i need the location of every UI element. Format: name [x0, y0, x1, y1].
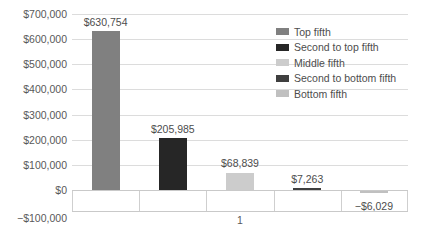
legend-swatch-icon	[276, 28, 289, 35]
chart-legend: Top fifthSecond to top fifthMiddle fifth…	[276, 24, 396, 102]
legend-item-label: Second to top fifth	[294, 42, 379, 53]
y-axis-tick-label: −$100,000	[0, 213, 67, 224]
y-axis-tick-label: $200,000	[0, 134, 67, 145]
bar-slot: $630,754	[72, 14, 139, 190]
y-axis-tick-label: $300,000	[0, 109, 67, 120]
legend-swatch-icon	[276, 75, 289, 82]
bar-value-label: $630,754	[84, 17, 128, 28]
bar-chart: $700,000$600,000$500,000$400,000$300,000…	[0, 0, 423, 232]
legend-swatch-icon	[276, 59, 289, 66]
x-axis-category-label: 1	[237, 215, 243, 226]
y-axis-tick-label: $100,000	[0, 160, 67, 171]
legend-item-label: Second to bottom fifth	[294, 73, 396, 84]
legend-item-label: Bottom fifth	[294, 89, 347, 100]
bar[interactable]	[226, 173, 254, 190]
bar[interactable]	[92, 31, 120, 190]
x-axis-category-band	[72, 191, 408, 212]
legend-item[interactable]: Top fifth	[276, 24, 396, 40]
legend-item[interactable]: Middle fifth	[276, 55, 396, 71]
legend-item[interactable]: Second to bottom fifth	[276, 71, 396, 87]
legend-item[interactable]: Bottom fifth	[276, 86, 396, 102]
bar-value-label: $205,985	[151, 124, 195, 135]
y-axis-tick-label: $400,000	[0, 84, 67, 95]
x-axis-tick	[72, 191, 73, 212]
legend-item-label: Top fifth	[294, 27, 331, 38]
x-axis-baseline	[72, 211, 408, 212]
x-axis-tick	[139, 191, 140, 212]
x-axis-tick	[206, 191, 207, 212]
bar-slot: $68,839	[206, 14, 273, 190]
legend-swatch-icon	[276, 90, 289, 97]
y-axis-tick-label: $0	[0, 185, 67, 196]
legend-item[interactable]: Second to top fifth	[276, 40, 396, 56]
legend-swatch-icon	[276, 44, 289, 51]
legend-item-label: Middle fifth	[294, 58, 345, 69]
bar-slot: $205,985	[139, 14, 206, 190]
y-axis-tick-label: $700,000	[0, 9, 67, 20]
bar-value-label: $7,263	[291, 174, 323, 185]
y-axis-tick-label: $600,000	[0, 34, 67, 45]
x-axis-tick	[274, 191, 275, 212]
x-axis-tick	[341, 191, 342, 212]
bar[interactable]	[159, 138, 187, 190]
y-axis-tick-label: $500,000	[0, 59, 67, 70]
bar-value-label: $68,839	[221, 158, 259, 169]
x-axis-tick	[407, 191, 408, 212]
